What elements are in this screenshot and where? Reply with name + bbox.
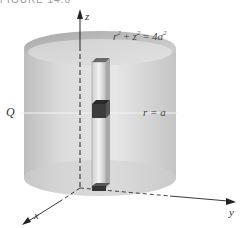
eq-rhs-exp: 2	[163, 29, 167, 37]
point-q-label: Q	[6, 106, 15, 118]
x-axis	[22, 188, 80, 225]
z-arrow-icon	[77, 9, 83, 19]
prism-column	[92, 58, 110, 191]
x-axis-label: x	[34, 210, 39, 221]
volume-element	[92, 104, 106, 118]
y-arrow-icon	[226, 198, 236, 205]
figure: FIGURE 14.6	[0, 0, 248, 228]
y-axis-label: y	[229, 207, 234, 218]
eq-plus: +	[121, 30, 133, 42]
eq-rhs: 4a	[152, 30, 163, 42]
sphere-equation: r2 + z2 = 4a2	[113, 30, 167, 42]
eq-equals: =	[140, 30, 152, 42]
x-arrow-icon	[22, 217, 31, 225]
cylinder-equation: r = a	[143, 107, 166, 118]
y-axis	[170, 196, 236, 205]
z-axis-label: z	[85, 11, 89, 22]
